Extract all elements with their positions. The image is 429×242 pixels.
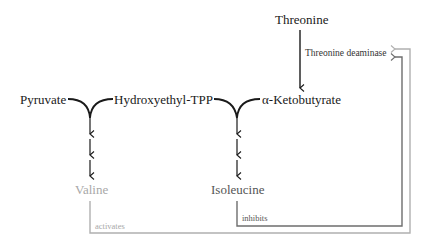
isoleucine-convergence-curve xyxy=(214,99,260,118)
node-alpha-ketobutyrate: α-Ketobutyrate xyxy=(262,93,341,106)
valine-convergence-curve xyxy=(68,99,113,118)
pathway-diagram-canvas xyxy=(0,0,429,242)
edge-label-activates: activates xyxy=(95,222,125,231)
node-pyruvate: Pyruvate xyxy=(20,93,66,106)
node-hydroxyethyl-tpp: Hydroxyethyl-TPP xyxy=(114,93,213,106)
activates-feedback-line xyxy=(90,49,410,233)
node-valine: Valine xyxy=(75,183,108,196)
edge-label-inhibits: inhibits xyxy=(242,214,268,223)
node-isoleucine: Isoleucine xyxy=(211,183,264,196)
enzyme-threonine-deaminase: Threonine deaminase xyxy=(305,49,387,59)
node-threonine: Threonine xyxy=(275,13,328,26)
inhibits-feedback-line xyxy=(237,57,402,226)
